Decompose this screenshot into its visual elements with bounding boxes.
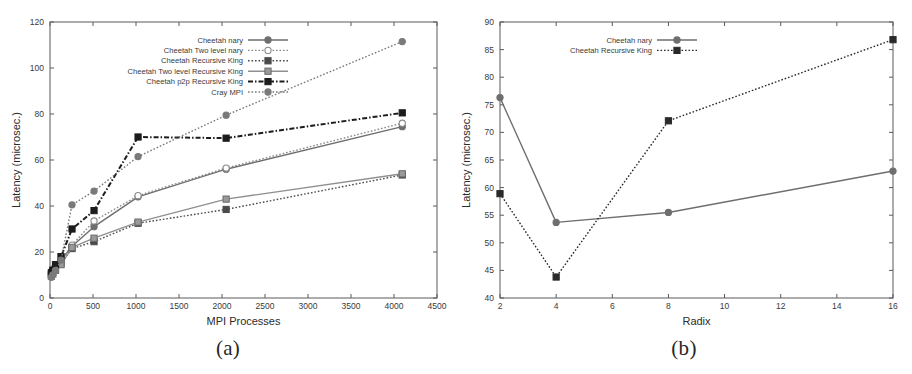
x-tick-label: 8 <box>666 301 671 311</box>
series-marker-3 <box>69 244 75 250</box>
x-tick-label: 0 <box>48 301 53 311</box>
chart-a: 0500100015002000250030003500400045000204… <box>0 0 456 336</box>
series-marker-3 <box>91 235 97 241</box>
legend-label-0: Cheetah nary <box>606 36 652 45</box>
x-tick-label: 16 <box>888 301 898 311</box>
series-marker-5 <box>223 112 229 118</box>
subcaption-b: (b) <box>456 336 912 361</box>
x-tick-label: 12 <box>776 301 786 311</box>
chart-b: 2468101214164045505560657075808590RadixL… <box>456 0 912 336</box>
y-tick-label: 40 <box>35 201 45 211</box>
series-marker-3 <box>399 171 405 177</box>
x-tick-label: 3500 <box>342 301 361 311</box>
y-tick-label: 60 <box>35 155 45 165</box>
x-tick-label: 2 <box>498 301 503 311</box>
legend-label-1: Cheetah Recursive King <box>570 46 652 55</box>
x-tick-label: 10 <box>720 301 730 311</box>
plot-frame <box>50 22 437 298</box>
y-tick-label: 45 <box>485 265 495 275</box>
legend-sample-marker-2 <box>265 58 271 64</box>
x-tick-label: 3000 <box>299 301 318 311</box>
x-tick-label: 1500 <box>170 301 189 311</box>
x-tick-label: 14 <box>832 301 842 311</box>
x-tick-label: 500 <box>86 301 100 311</box>
series-marker-0 <box>665 209 671 215</box>
series-marker-2 <box>223 206 229 212</box>
y-tick-label: 100 <box>30 63 44 73</box>
series-line-2 <box>51 175 402 275</box>
series-line-3 <box>51 174 402 276</box>
figure-panel-b: 2468101214164045505560657075808590RadixL… <box>456 0 912 374</box>
y-tick-label: 60 <box>485 183 495 193</box>
legend-sample-marker-1 <box>265 47 271 53</box>
legend-sample-marker-1 <box>674 47 680 53</box>
x-tick-label: 4 <box>554 301 559 311</box>
y-tick-label: 65 <box>485 155 495 165</box>
series-marker-4 <box>91 208 97 214</box>
legend-label-5: Cray MPI <box>211 88 243 97</box>
legend-label-1: Cheetah Two level nary <box>164 46 243 55</box>
legend-sample-marker-5 <box>265 89 271 95</box>
y-axis-title: Latency (microsec.) <box>460 112 472 208</box>
y-tick-label: 85 <box>485 45 495 55</box>
series-marker-4 <box>223 135 229 141</box>
series-marker-5 <box>135 153 141 159</box>
series-marker-5 <box>69 202 75 208</box>
legend-sample-marker-0 <box>674 37 680 43</box>
subcaption-a: (a) <box>0 336 456 361</box>
y-tick-label: 80 <box>485 72 495 82</box>
series-marker-5 <box>399 38 405 44</box>
x-tick-label: 4500 <box>428 301 447 311</box>
x-axis-title: MPI Processes <box>207 315 281 327</box>
series-marker-1 <box>665 118 671 124</box>
x-tick-label: 4000 <box>385 301 404 311</box>
legend-sample-marker-3 <box>265 68 271 74</box>
y-tick-label: 55 <box>485 210 495 220</box>
y-tick-label: 40 <box>485 293 495 303</box>
series-marker-1 <box>135 193 141 199</box>
x-tick-label: 2500 <box>256 301 275 311</box>
y-tick-label: 20 <box>35 247 45 257</box>
x-tick-label: 2000 <box>213 301 232 311</box>
series-marker-1 <box>553 274 559 280</box>
legend-label-3: Cheetah Two level Recursive King <box>127 67 243 76</box>
x-tick-label: 6 <box>610 301 615 311</box>
series-marker-0 <box>497 95 503 101</box>
series-marker-0 <box>553 219 559 225</box>
y-tick-label: 50 <box>485 238 495 248</box>
legend-label-0: Cheetah nary <box>197 36 243 45</box>
legend-label-4: Cheetah p2p Recursive King <box>146 77 243 86</box>
series-marker-4 <box>69 226 75 232</box>
y-axis-title: Latency (microsec.) <box>10 112 22 208</box>
y-tick-label: 90 <box>485 17 495 27</box>
y-tick-label: 0 <box>39 293 44 303</box>
series-marker-3 <box>223 196 229 202</box>
series-marker-4 <box>399 110 405 116</box>
series-line-0 <box>500 98 893 223</box>
figure-panel-a: 0500100015002000250030003500400045000204… <box>0 0 456 374</box>
figure-container: 0500100015002000250030003500400045000204… <box>0 0 912 374</box>
x-tick-label: 1000 <box>127 301 146 311</box>
y-tick-label: 120 <box>30 17 44 27</box>
series-marker-5 <box>52 267 58 273</box>
series-marker-5 <box>58 257 64 263</box>
series-line-1 <box>500 40 893 277</box>
legend-sample-marker-0 <box>265 37 271 43</box>
series-marker-3 <box>135 219 141 225</box>
x-axis-title: Radix <box>682 315 711 327</box>
y-tick-label: 80 <box>35 109 45 119</box>
legend-label-2: Cheetah Recursive King <box>161 56 243 65</box>
series-marker-0 <box>890 168 896 174</box>
series-marker-1 <box>497 191 503 197</box>
series-marker-1 <box>91 218 97 224</box>
y-tick-label: 70 <box>485 127 495 137</box>
plot-frame <box>500 22 893 298</box>
series-marker-1 <box>890 37 896 43</box>
legend-sample-marker-4 <box>265 79 271 85</box>
series-marker-1 <box>223 165 229 171</box>
series-marker-5 <box>91 188 97 194</box>
series-marker-1 <box>399 120 405 126</box>
series-marker-4 <box>135 134 141 140</box>
y-tick-label: 75 <box>485 100 495 110</box>
